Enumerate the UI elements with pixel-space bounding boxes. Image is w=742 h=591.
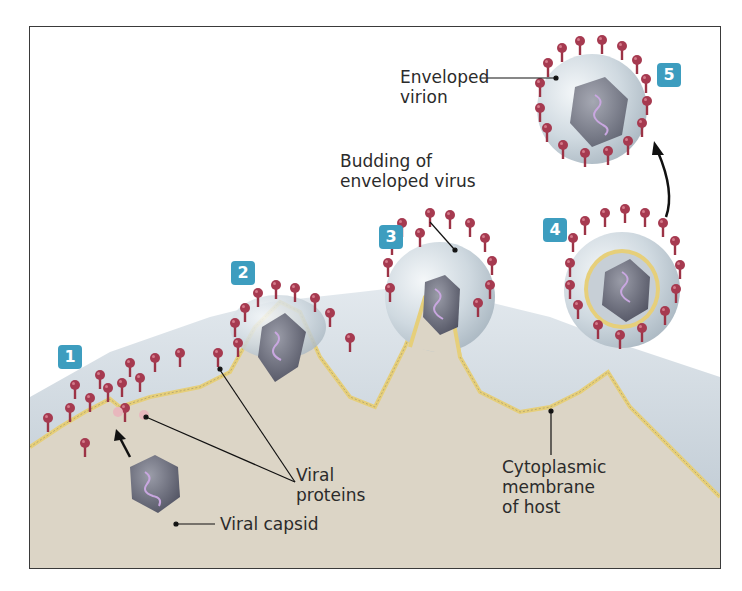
label-viral-proteins: Viral proteins [296,465,365,505]
label-cytoplasmic-membrane: Cytoplasmic membrane of host [502,457,606,517]
step-badge-4: 4 [543,218,567,242]
budding-illustration [30,27,720,568]
diagram-frame: 1 2 3 4 5 Enveloped virion Budding of en… [29,26,721,569]
label-enveloped-virion: Enveloped virion [400,67,489,107]
label-budding: Budding of enveloped virus [340,151,476,191]
step-badge-3: 3 [379,225,403,249]
step-badge-2: 2 [231,261,255,285]
label-viral-capsid: Viral capsid [220,514,318,534]
step-badge-1: 1 [58,345,82,369]
step-badge-5: 5 [657,63,681,87]
step4-released-virion [564,204,685,349]
step5-enveloped-virion [535,35,652,167]
